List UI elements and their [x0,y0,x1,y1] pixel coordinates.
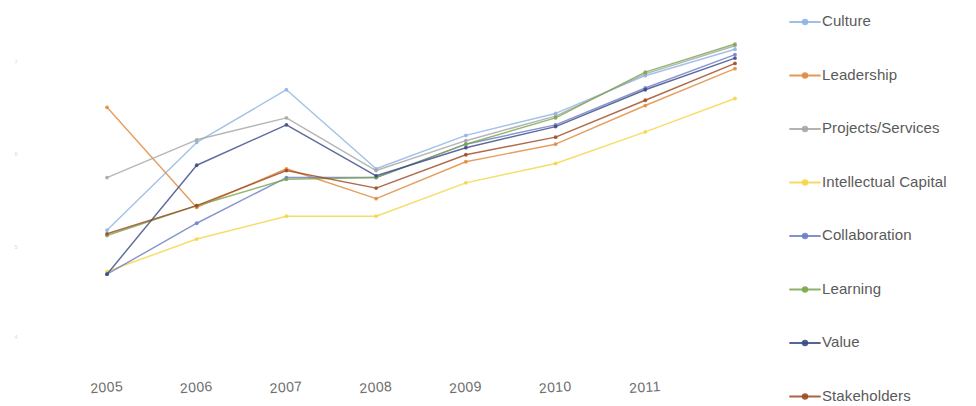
series-data-point [105,105,109,109]
series-data-point [643,104,647,108]
series-data-point [374,186,378,190]
series-data-point [195,221,199,225]
series-data-point [195,204,199,208]
series-data-point [554,162,558,166]
legend-item-value[interactable]: Value [790,333,860,350]
series-data-point [464,146,468,150]
series-data-point [733,53,737,57]
series-data-point [643,70,647,74]
legend-marker-icon [802,286,808,292]
series-data-point [464,160,468,164]
series-group [105,42,737,276]
series-line [107,55,735,275]
chart-canvas: 7654 2005200620072008200920102011 Cultur… [0,0,976,406]
series-data-point [374,174,378,178]
series-leadership [105,67,737,210]
series-data-point [733,42,737,46]
y-axis-tick-label: 7 [14,59,17,65]
x-axis-tick-label: 2008 [359,378,393,396]
legend-item-intellectual-capital[interactable]: Intellectual Capital [790,173,947,190]
series-intellectual-capital [105,97,737,274]
x-axis-tick-label: 2007 [269,378,303,396]
series-data-point [733,67,737,71]
legend-label: Value [822,333,860,350]
legend-item-culture[interactable]: Culture [790,12,871,29]
legend-item-projects-services[interactable]: Projects/Services [790,119,940,136]
series-data-point [285,116,289,120]
series-data-point [285,123,289,127]
series-line [107,46,735,178]
chart-legend: CultureLeadershipProjects/ServicesIntell… [790,12,947,404]
legend-item-collaboration[interactable]: Collaboration [790,226,912,243]
y-axis-tick-label: 6 [14,151,17,157]
series-data-point [195,237,199,241]
legend-marker-icon [802,340,808,346]
legend-item-stakeholders[interactable]: Stakeholders [790,387,911,404]
series-line [107,99,735,272]
x-axis-tick-label: 2009 [449,378,483,396]
legend-marker-icon [802,393,808,399]
legend-label: Culture [822,12,871,29]
legend-marker-icon [802,233,808,239]
series-data-point [554,142,558,146]
series-data-point [195,163,199,167]
legend-marker-icon [802,19,808,25]
series-data-point [105,176,109,180]
series-data-point [733,56,737,60]
series-data-point [554,116,558,120]
series-data-point [464,134,468,138]
x-axis-tick-label: 2005 [90,378,124,396]
legend-label: Learning [822,280,881,297]
series-data-point [554,135,558,139]
series-data-point [374,169,378,173]
series-data-point [374,214,378,218]
series-data-point [643,98,647,102]
series-data-point [464,142,468,146]
x-axis-tick-labels: 2005200620072008200920102011 [90,378,662,396]
legend-label: Projects/Services [822,119,940,136]
legend-marker-icon [802,179,808,185]
series-data-point [464,139,468,143]
x-axis-tick-label: 2010 [538,378,572,396]
y-axis-tick-label: 4 [14,334,17,340]
series-data-point [643,88,647,92]
legend-label: Leadership [822,66,897,83]
x-axis-tick-label: 2006 [179,378,213,396]
series-data-point [285,88,289,92]
legend-marker-icon [802,126,808,132]
y-axis-tick-label: 5 [14,244,17,250]
series-data-point [105,272,109,276]
legend-item-leadership[interactable]: Leadership [790,66,897,83]
legend-label: Collaboration [822,226,912,243]
series-data-point [464,153,468,157]
series-data-point [374,197,378,201]
series-data-point [643,130,647,134]
x-axis-tick-label: 2011 [629,378,662,396]
legend-label: Stakeholders [822,387,911,404]
series-data-point [285,169,289,173]
series-data-point [285,214,289,218]
series-data-point [733,47,737,51]
series-data-point [105,228,109,232]
series-data-point [285,177,289,181]
legend-label: Intellectual Capital [822,173,947,190]
series-stakeholders [105,61,737,235]
series-data-point [733,61,737,65]
series-data-point [554,125,558,129]
series-data-point [195,138,199,142]
legend-item-learning[interactable]: Learning [790,280,881,297]
series-data-point [733,97,737,101]
series-projects-services [105,44,737,180]
series-data-point [464,181,468,185]
series-line [107,63,735,233]
y-axis-tick-labels: 7654 [14,59,17,340]
line-chart: 7654 2005200620072008200920102011 Cultur… [0,0,976,406]
legend-marker-icon [802,72,808,78]
series-data-point [105,232,109,236]
